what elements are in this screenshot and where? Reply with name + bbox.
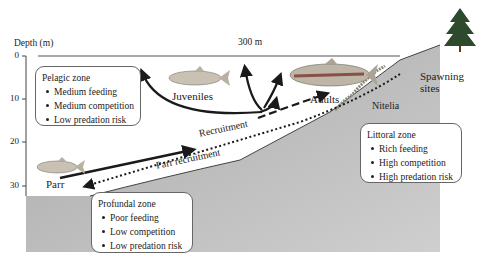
tick-0: 0: [5, 50, 19, 60]
parr-fish-icon: [37, 157, 85, 174]
tick-20: 20: [5, 136, 19, 146]
bullet-icon: [371, 175, 374, 178]
adults-label: Adults: [310, 93, 339, 105]
tick-30: 30: [5, 180, 19, 190]
pelagic-zone-box: Pelagic zone Medium feeding Medium compe…: [35, 66, 141, 126]
littoral-zone-title: Littoral zone: [367, 128, 455, 142]
bullet-icon: [46, 104, 49, 107]
profundal-zone-box: Profundal zone Poor feeding Low competit…: [91, 192, 193, 253]
lake-diagram: Depth (m) 0 10 20 30 300 m Pelagic zone …: [0, 0, 483, 268]
juveniles-label: Juveniles: [172, 90, 213, 102]
nitelia-label: Nitelia: [372, 100, 399, 111]
bullet-icon: [371, 161, 374, 164]
bullet-icon: [102, 230, 105, 233]
bullet-icon: [102, 244, 105, 247]
bullet-icon: [46, 118, 49, 121]
width-label: 300 m: [238, 37, 262, 47]
pelagic-zone-title: Pelagic zone: [42, 71, 134, 85]
profundal-zone-title: Profundal zone: [98, 197, 186, 211]
depth-axis-title: Depth (m): [14, 38, 53, 48]
littoral-zone-box: Littoral zone Rich feeding High competit…: [360, 123, 462, 183]
adult-fish-icon: [290, 58, 378, 86]
juvenile-fish-icon: [169, 66, 230, 86]
parr-label: Parr: [46, 178, 64, 190]
tree-icon: [444, 8, 476, 52]
bullet-icon: [371, 147, 374, 150]
bullet-icon: [102, 216, 105, 219]
bullet-icon: [46, 90, 49, 93]
tick-10: 10: [5, 93, 19, 103]
spawning-sites-label: Spawning sites: [420, 70, 464, 94]
